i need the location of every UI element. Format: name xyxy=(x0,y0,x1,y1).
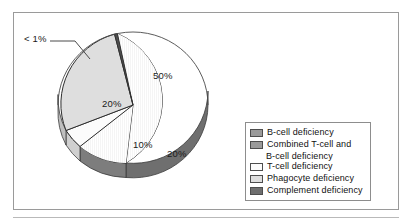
pie-label-combined: 20% xyxy=(167,148,187,159)
pie-chart: 50% 20% 10% 20% xyxy=(48,13,218,198)
pie-label-b-cell: 50% xyxy=(153,70,173,81)
pie-chart-svg xyxy=(48,13,218,198)
legend-label-t-cell: T-cell deficiency xyxy=(267,161,333,172)
pie-label-complement: < 1% xyxy=(24,33,47,44)
legend-label-complement: Complement deficiency xyxy=(267,185,363,196)
legend-swatch-phagocyte-icon xyxy=(250,175,263,183)
legend-swatch-t-cell-icon xyxy=(250,163,263,171)
legend-item-b-cell: B-cell deficiency xyxy=(250,127,366,138)
legend-item-complement: Complement deficiency xyxy=(250,185,366,196)
legend-swatch-complement-icon xyxy=(250,187,263,195)
legend-label-b-cell: B-cell deficiency xyxy=(267,127,334,138)
legend-swatch-b-cell-icon xyxy=(250,129,263,137)
legend-label-combined-line2: B-cell deficiency xyxy=(250,151,366,161)
legend-item-phagocyte: Phagocyte deficiency xyxy=(250,173,366,184)
legend-label-combined: Combined T-cell and xyxy=(267,139,351,150)
legend-item-combined: Combined T-cell and xyxy=(250,139,366,150)
chart-legend: B-cell deficiency Combined T-cell and B-… xyxy=(245,122,371,201)
pie-label-t-cell: 10% xyxy=(133,139,153,150)
legend-swatch-combined-icon xyxy=(250,141,263,149)
bottom-separator-rule xyxy=(13,217,399,218)
pie-label-phagocyte: 20% xyxy=(102,98,122,109)
legend-item-t-cell: T-cell deficiency xyxy=(250,161,366,172)
legend-label-phagocyte: Phagocyte deficiency xyxy=(267,173,354,184)
